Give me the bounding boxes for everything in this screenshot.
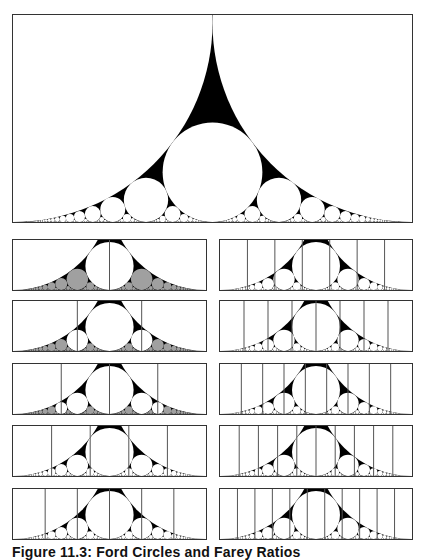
ford-circle xyxy=(115,475,116,476)
ford-circle xyxy=(23,413,24,414)
ford-circle xyxy=(357,221,358,222)
ford-circle xyxy=(42,413,43,414)
ford-circle xyxy=(74,211,85,222)
ford-circle xyxy=(135,412,137,414)
ford-circle xyxy=(249,409,254,414)
ford-circle xyxy=(55,288,57,290)
ford-circle xyxy=(134,221,135,222)
ford-circle xyxy=(230,289,231,290)
ford-circle xyxy=(49,350,50,351)
ford-circle xyxy=(32,221,33,222)
ford-circle xyxy=(343,475,344,476)
ford-circle xyxy=(234,538,235,539)
ford-circle xyxy=(183,537,185,539)
ford-circle xyxy=(30,474,32,476)
ford-circle xyxy=(149,289,150,290)
ford-circle xyxy=(279,475,280,476)
ford-circle xyxy=(276,538,277,539)
ford-circle xyxy=(31,288,33,290)
ford-circle xyxy=(33,289,34,290)
ford-circle xyxy=(121,535,125,539)
ford-circle xyxy=(271,289,272,290)
ford-circles-svg xyxy=(220,301,412,351)
ford-circle xyxy=(232,475,233,476)
ford-circle xyxy=(103,350,104,351)
ford-circle xyxy=(168,221,169,222)
ford-circle xyxy=(328,410,332,414)
ford-circle xyxy=(31,349,33,351)
ford-circle xyxy=(225,220,227,222)
ford-circle xyxy=(300,221,301,222)
ford-circle xyxy=(146,350,147,351)
ford-circle xyxy=(293,289,294,290)
ford-circle xyxy=(131,289,132,290)
ford-circle xyxy=(55,537,57,539)
ford-circle xyxy=(88,538,89,539)
ford-circle xyxy=(311,538,312,539)
ford-circle xyxy=(227,220,229,222)
ford-circle xyxy=(339,411,342,414)
ford-circle xyxy=(66,475,67,476)
ford-circle xyxy=(121,286,125,290)
ford-circle xyxy=(191,289,192,290)
ford-circle xyxy=(360,350,361,351)
ford-circle xyxy=(146,538,147,539)
ford-circle xyxy=(73,350,74,351)
ford-circle xyxy=(64,413,65,414)
ford-circle xyxy=(304,475,305,476)
ford-circle xyxy=(238,537,240,539)
ford-circle xyxy=(284,221,285,222)
ford-circle xyxy=(400,350,401,351)
ford-circle xyxy=(360,475,361,476)
ford-circle xyxy=(117,474,119,476)
ford-circle xyxy=(392,413,393,414)
ford-circle xyxy=(149,410,153,414)
ford-circle xyxy=(194,475,195,476)
ford-circle xyxy=(23,413,24,414)
ford-circle xyxy=(189,350,190,351)
ford-circle xyxy=(386,289,387,290)
ford-circle xyxy=(152,221,153,222)
ford-circle xyxy=(337,330,358,351)
ford-circle xyxy=(244,206,260,222)
ford-circle xyxy=(84,219,87,222)
ford-circle xyxy=(72,221,73,222)
ford-circle xyxy=(124,538,125,539)
ford-circle xyxy=(26,413,27,414)
ford-circle xyxy=(180,348,183,351)
ford-circle xyxy=(27,289,28,290)
ford-circle xyxy=(270,538,271,539)
ford-circle xyxy=(47,475,48,476)
ford-circle xyxy=(154,413,155,414)
ford-circle xyxy=(87,220,89,222)
ford-circle xyxy=(65,537,67,539)
ford-circle xyxy=(23,538,24,539)
ford-circle xyxy=(194,538,195,539)
ford-circle xyxy=(321,289,322,290)
ford-circle xyxy=(70,349,72,351)
ford-circle xyxy=(369,221,370,222)
ford-circle xyxy=(280,475,281,476)
ford-circle xyxy=(183,538,184,539)
ford-circle xyxy=(161,221,162,222)
ford-circle xyxy=(89,221,90,222)
ford-circle xyxy=(285,221,286,222)
ford-circle xyxy=(369,221,370,222)
ford-circle xyxy=(132,348,135,351)
ford-circle xyxy=(311,350,312,351)
ford-circle xyxy=(277,349,279,351)
ford-circle xyxy=(392,538,393,539)
ford-circle xyxy=(28,413,29,414)
ford-circle xyxy=(378,289,379,290)
ford-circle xyxy=(277,288,279,290)
ford-circle xyxy=(243,411,246,414)
ford-circle xyxy=(283,221,284,222)
ford-circle xyxy=(293,531,301,539)
ford-circle xyxy=(131,269,152,290)
ford-circle xyxy=(280,350,281,351)
ford-circle xyxy=(64,350,65,351)
ford-circle xyxy=(35,538,36,539)
ford-circle xyxy=(191,350,192,351)
ford-circle xyxy=(82,221,83,222)
ford-circle xyxy=(232,538,233,539)
